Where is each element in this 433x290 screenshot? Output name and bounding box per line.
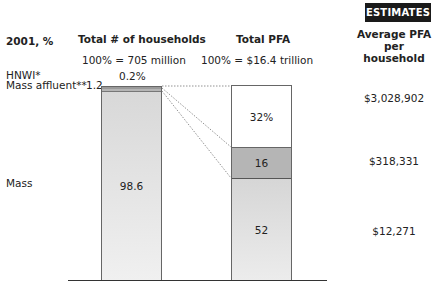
avg-pfa-mass-affluent: $318,331: [355, 155, 433, 167]
connector-lines: [0, 0, 433, 290]
avg-pfa-hnwi: $3,028,902: [355, 92, 433, 104]
avg-pfa-mass: $12,271: [355, 225, 433, 237]
